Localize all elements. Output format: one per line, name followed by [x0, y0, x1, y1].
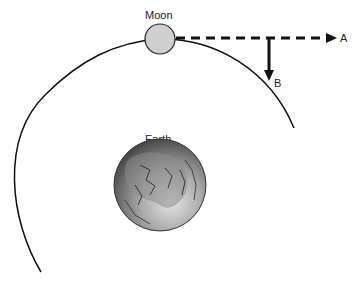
label-arrow-b: B	[274, 77, 281, 89]
earth-icon	[114, 139, 206, 231]
label-arrow-a: A	[340, 32, 348, 44]
label-moon: Moon	[145, 9, 173, 21]
moon-icon	[145, 24, 175, 54]
arrow-b-head-icon	[264, 70, 274, 81]
moon-orbit-diagram: A B Moon Earth	[0, 0, 361, 281]
arrow-a-head-icon	[326, 33, 337, 43]
